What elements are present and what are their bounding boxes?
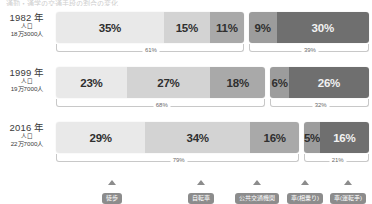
bar-segment-carpool[interactable]: 9%: [249, 12, 277, 43]
legend-pin-icon: [197, 180, 205, 185]
total-bracket-value: 61%: [142, 47, 159, 53]
bar-group-left: 29%34%16%: [56, 122, 299, 153]
row-year: 1982 年: [0, 13, 54, 23]
legend-item-label: 自転車: [188, 193, 214, 204]
bar-group-left: 23%27%18%: [56, 67, 265, 98]
bar-group-right: 6%26%: [270, 67, 369, 98]
row-label: 1999 年人口19万7000人: [0, 68, 54, 92]
bar-segment-driver[interactable]: 30%: [277, 12, 369, 43]
total-bracket-value: 68%: [153, 102, 170, 108]
total-bracket-left: 68%: [56, 99, 265, 107]
bar-segment-value: 18%: [226, 77, 248, 89]
bar-segment-bike[interactable]: 15%: [164, 12, 210, 43]
total-bracket-right: 21%: [304, 154, 369, 162]
bar-segment-driver[interactable]: 16%: [320, 122, 369, 153]
legend-item-label: 公共交通機関: [235, 193, 279, 204]
bar-segment-transit[interactable]: 18%: [210, 67, 265, 98]
total-bracket-value: 32%: [312, 102, 329, 108]
legend-pin-icon: [301, 180, 309, 185]
total-bracket-right: 39%: [249, 44, 369, 52]
legend-item-label: 車(運転手): [330, 193, 366, 204]
legend-item-4[interactable]: 車(相乗り): [287, 186, 323, 204]
legend-item-5[interactable]: 車(運転手): [330, 186, 366, 204]
chart-row: 2016 年人口22万7000人29%34%16%5%16%79%21%: [0, 122, 372, 153]
bar-segment-value: 11%: [216, 22, 238, 34]
row-label: 2016 年人口22万7000人: [0, 123, 54, 147]
transport-mode-chart: 通勤・通学の交通手段の割合の変化 1982 年人口18万3000人35%15%1…: [0, 0, 372, 204]
chart-title: 通勤・通学の交通手段の割合の変化: [6, 0, 256, 6]
bar-segment-value: 15%: [176, 22, 198, 34]
bar-segment-value: 16%: [263, 132, 285, 144]
bar-segment-value: 6%: [272, 77, 288, 89]
total-bracket-left: 79%: [56, 154, 299, 162]
row-population-value: 18万3000人: [0, 31, 54, 38]
legend-item-2[interactable]: 自転車: [188, 186, 214, 204]
bar-segment-value: 35%: [99, 22, 121, 34]
bar-segment-bike[interactable]: 27%: [127, 67, 210, 98]
legend-item-1[interactable]: 徒歩: [102, 186, 122, 204]
bar-segment-carpool[interactable]: 5%: [304, 122, 319, 153]
legend-item-label: 徒歩: [102, 193, 122, 204]
bar-segment-value: 30%: [312, 22, 334, 34]
bar-segment-value: 16%: [333, 132, 355, 144]
bar-segment-value: 27%: [157, 77, 179, 89]
bar-segment-walk[interactable]: 23%: [56, 67, 127, 98]
bar-segment-carpool[interactable]: 6%: [270, 67, 288, 98]
chart-row: 1999 年人口19万7000人23%27%18%6%26%68%32%: [0, 67, 372, 98]
row-year: 2016 年: [0, 123, 54, 133]
total-bracket-value: 21%: [329, 157, 346, 163]
row-label: 1982 年人口18万3000人: [0, 13, 54, 37]
total-bracket-left: 61%: [56, 44, 244, 52]
bar-segment-bike[interactable]: 34%: [145, 122, 250, 153]
row-population-value: 19万7000人: [0, 86, 54, 93]
bar-group-right: 9%30%: [249, 12, 369, 43]
legend-pin-icon: [108, 180, 116, 185]
total-bracket-right: 32%: [270, 99, 369, 107]
total-bracket-value: 39%: [301, 47, 318, 53]
chart-legend: 徒歩自転車公共交通機関車(相乗り)車(運転手): [0, 183, 372, 204]
bar-segment-value: 23%: [80, 77, 102, 89]
bar-segment-value: 5%: [304, 132, 320, 144]
bar-segment-walk[interactable]: 35%: [56, 12, 164, 43]
legend-pin-icon: [253, 180, 261, 185]
total-bracket-value: 79%: [170, 157, 187, 163]
bar-group-right: 5%16%: [304, 122, 369, 153]
legend-item-label: 車(相乗り): [287, 193, 323, 204]
bar-group-left: 35%15%11%: [56, 12, 244, 43]
bar-segment-value: 34%: [186, 132, 208, 144]
bar-segment-value: 29%: [89, 132, 111, 144]
bar-segment-transit[interactable]: 16%: [250, 122, 299, 153]
bar-segment-value: 26%: [318, 77, 340, 89]
row-year: 1999 年: [0, 68, 54, 78]
bar-segment-transit[interactable]: 11%: [210, 12, 244, 43]
chart-row: 1982 年人口18万3000人35%15%11%9%30%61%39%: [0, 12, 372, 43]
legend-pin-icon: [344, 180, 352, 185]
row-population-value: 22万7000人: [0, 141, 54, 148]
bar-segment-driver[interactable]: 26%: [289, 67, 369, 98]
legend-item-3[interactable]: 公共交通機関: [235, 186, 279, 204]
bar-segment-walk[interactable]: 29%: [56, 122, 145, 153]
bar-segment-value: 9%: [255, 22, 271, 34]
